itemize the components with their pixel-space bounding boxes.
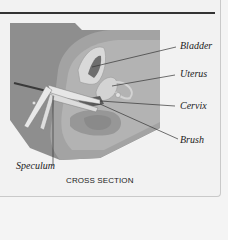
label-uterus: Uterus: [180, 68, 207, 79]
figure-caption: CROSS SECTION: [66, 176, 134, 185]
label-bladder: Bladder: [180, 40, 212, 51]
label-speculum: Speculum: [16, 160, 55, 171]
label-cervix: Cervix: [180, 100, 207, 111]
label-brush: Brush: [180, 134, 204, 145]
